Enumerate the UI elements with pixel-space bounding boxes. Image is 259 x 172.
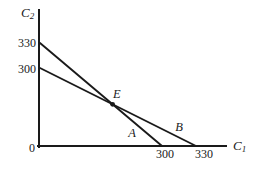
intersection-point-dot [110, 102, 115, 107]
x-axis-label: C1 [233, 138, 246, 154]
budget-line-a [40, 43, 162, 146]
y-tick-label-300: 300 [18, 62, 36, 76]
y-axis-label-base: C [21, 5, 30, 20]
x-axis-label-subscript: 1 [242, 144, 247, 154]
figure-canvas: C2 C1 330 300 0 300 330 E A B [0, 0, 259, 172]
x-axis-label-base: C [233, 138, 242, 153]
y-axis-label: C2 [21, 5, 35, 21]
point-label-e: E [112, 87, 121, 101]
point-label-b: B [175, 120, 183, 134]
point-label-a: A [127, 126, 136, 140]
budget-line-diagram: C2 C1 330 300 0 300 330 E A B [0, 0, 259, 172]
y-axis-label-subscript: 2 [30, 11, 35, 21]
budget-line-b [40, 68, 196, 146]
origin-label: 0 [29, 141, 35, 155]
x-tick-label-300: 300 [156, 147, 174, 161]
x-tick-label-330: 330 [195, 147, 213, 161]
y-tick-label-330: 330 [18, 36, 36, 50]
